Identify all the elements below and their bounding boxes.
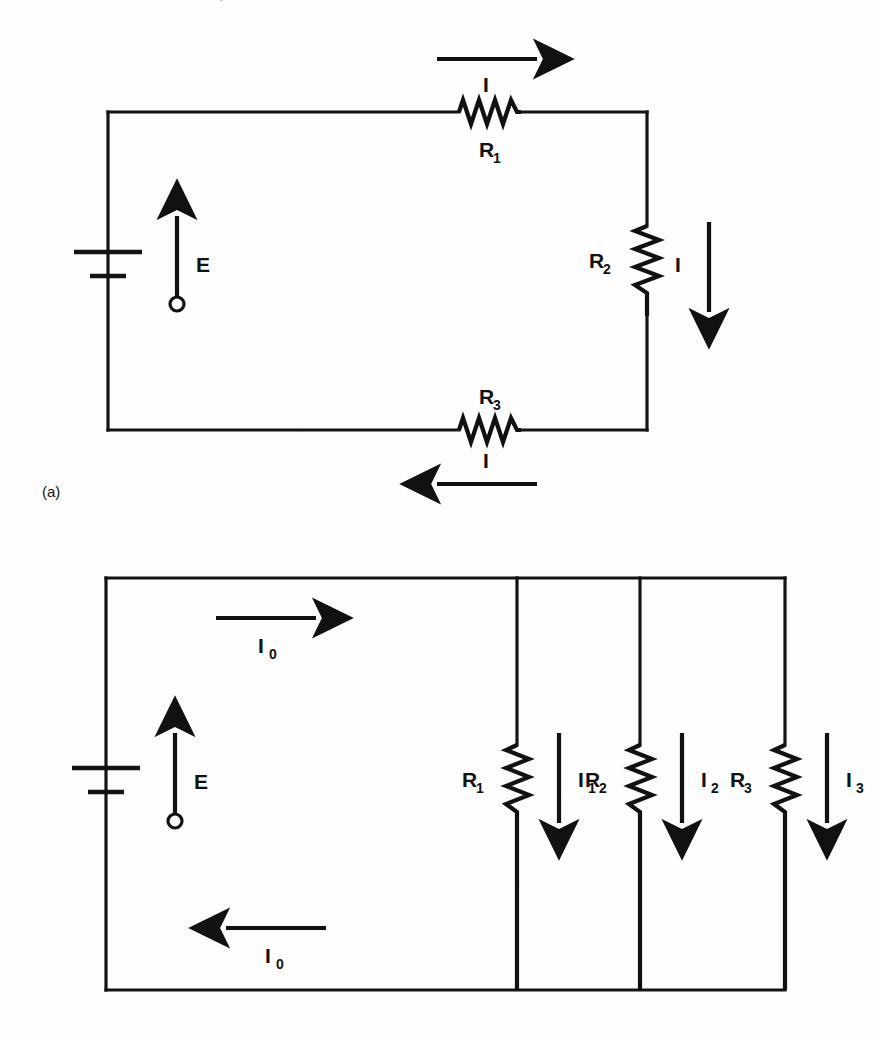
- emf-terminal-ring: [170, 297, 184, 311]
- resistor-r3-label-b: R: [730, 768, 745, 791]
- current-label-top-a: I: [483, 73, 489, 96]
- current-subscript-i2: 2: [711, 780, 719, 796]
- resistor-r2-label-b: R: [585, 768, 600, 791]
- resistor-r3-zigzag: [459, 418, 521, 442]
- resistor-r2-zigzag-b: [629, 745, 652, 990]
- resistor-r1-zigzag-b: [506, 745, 529, 990]
- branch-r2-b: [629, 578, 652, 990]
- branch-r3-b: [774, 578, 797, 990]
- resistor-r3-subscript-b: 3: [744, 780, 752, 796]
- current-label-i0-top: I: [258, 634, 264, 657]
- resistor-r3-subscript-a: 3: [493, 397, 501, 413]
- resistor-r1-subscript-b: 1: [476, 780, 484, 796]
- resistor-r3-zigzag-b: [774, 745, 797, 990]
- current-label-i0-bottom: I: [265, 944, 271, 967]
- current-subscript-i0-top: 0: [269, 646, 277, 662]
- current-label-right-a: I: [675, 253, 681, 276]
- resistor-r2-zigzag: [635, 226, 659, 316]
- resistor-r2-subscript-a: 2: [603, 261, 611, 277]
- resistor-r3-a: [459, 418, 521, 442]
- emf-label-a: E: [196, 253, 210, 276]
- current-subscript-i0-bottom: 0: [276, 956, 284, 972]
- figure-b-parallel-circuit: E I 0 I 0 R 1 I 1 R 2: [0, 520, 874, 1039]
- figure-a-caption: (a): [42, 483, 60, 500]
- diagram-page: Resistors in series and in parallel: [0, 0, 874, 1039]
- emf-terminal-ring-b: [168, 814, 182, 828]
- resistor-r3-label-a: R: [479, 385, 494, 408]
- resistor-r1-a: [459, 100, 521, 124]
- emf-arrow-b: [168, 733, 182, 828]
- resistor-r1-label-b: R: [462, 768, 477, 791]
- emf-label-b: E: [194, 770, 208, 793]
- current-label-bottom-a: I: [483, 449, 489, 472]
- resistor-r2-a: [635, 226, 659, 316]
- resistor-r1-zigzag: [459, 100, 521, 124]
- resistor-r2-subscript-b: 2: [599, 780, 607, 796]
- resistor-r2-label-a: R: [589, 249, 604, 272]
- emf-arrow-a: [170, 216, 184, 311]
- current-label-i1: I: [578, 768, 584, 791]
- current-subscript-i3: 3: [856, 780, 864, 796]
- current-label-i3: I: [846, 768, 852, 791]
- figure-a-series-circuit: E R 1 I R 2 I R 3 I: [0, 0, 874, 520]
- branch-r1-b: [506, 578, 529, 990]
- current-label-i2: I: [701, 768, 707, 791]
- resistor-r1-label-a: R: [479, 138, 494, 161]
- resistor-r1-subscript-a: 1: [493, 150, 501, 166]
